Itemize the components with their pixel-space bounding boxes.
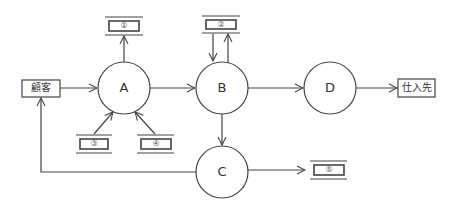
data-flow-diagram: 顧客 仕入先 A B C D ① ② ③ ④ ⑤ bbox=[0, 0, 455, 207]
process-d-label: D bbox=[320, 81, 340, 94]
data-store-4-label: ④ bbox=[141, 140, 171, 148]
flow-store4-to-a bbox=[135, 112, 155, 134]
flow-store3-to-a bbox=[94, 112, 113, 134]
process-b-label: B bbox=[212, 81, 232, 94]
data-store-2-label: ② bbox=[206, 21, 236, 29]
process-a-label: A bbox=[114, 81, 134, 94]
entity-supplier-label: 仕入先 bbox=[398, 83, 435, 93]
entity-customer-label: 顧客 bbox=[22, 83, 60, 93]
data-store-3-label: ③ bbox=[80, 140, 108, 148]
data-store-5-label: ⑤ bbox=[314, 166, 344, 174]
data-store-1-label: ① bbox=[109, 22, 139, 30]
process-c-label: C bbox=[212, 165, 232, 178]
